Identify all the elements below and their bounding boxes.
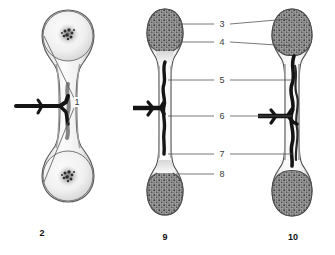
callout-5: 5 [218,75,225,85]
figure-canvas: 1 3 4 5 6 7 8 2 9 10 [0,0,335,255]
callout-4: 4 [218,37,225,47]
leader-3-right [230,19,288,24]
callout-leader-lines [0,0,335,255]
callout-1: 1 [73,97,80,107]
panel-label-10: 10 [288,232,298,242]
callout-7: 7 [218,149,225,159]
leader-4-right [230,42,292,46]
callout-6: 6 [218,111,225,121]
callout-8: 8 [218,169,225,179]
panel-label-2: 2 [39,228,44,238]
panel-label-9: 9 [162,232,167,242]
callout-3: 3 [218,19,225,29]
